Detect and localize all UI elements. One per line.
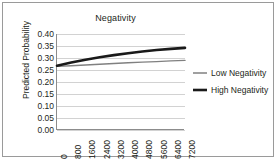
y-axis-tick-label: 0.30 [14,54,54,62]
chart-frame: Negativity Predicted Probability 0.400.3… [2,2,274,157]
chart-legend: Low Negativity High Negativity [193,64,277,98]
legend-label-low: Low Negativity [211,68,266,78]
x-axis-tick-label: 4800 [145,140,153,159]
x-axis-tick-label: 0 [60,154,68,159]
y-axis-tick-label: 0.10 [14,102,54,110]
x-axis-tick-labels: 080016002400320040004800560064007200 [56,131,186,163]
y-axis-tick-label: 0.00 [14,126,54,134]
legend-line-swatch-low [193,69,207,77]
x-axis-tick-label: 6400 [174,140,182,159]
x-axis-tick-label: 800 [74,145,82,159]
legend-line-swatch-high [193,86,207,94]
y-axis-tick-label: 0.20 [14,78,54,86]
x-axis-tick-label: 2400 [103,140,111,159]
y-axis-tick-label: 0.05 [14,114,54,122]
chart-title: Negativity [43,13,188,23]
y-axis-tick-label: 0.15 [14,90,54,98]
y-axis-tick-label: 0.25 [14,66,54,74]
y-axis-tick-label: 0.35 [14,42,54,50]
legend-label-high: High Negativity [211,85,268,95]
x-axis-tick-label: 1600 [88,140,96,159]
y-axis-tick-labels: 0.400.350.300.250.200.150.100.050.00 [12,34,54,130]
x-axis-tick-label: 4000 [131,140,139,159]
y-axis-tick-label: 0.40 [14,30,54,38]
plot-area [56,34,184,130]
x-axis-tick-label: 5600 [160,140,168,159]
series-container [57,34,185,130]
x-axis-tick-label: 7200 [188,140,196,159]
legend-item-high-negativity[interactable]: High Negativity [193,81,277,98]
legend-item-low-negativity[interactable]: Low Negativity [193,64,277,81]
x-axis-tick-label: 3200 [117,140,125,159]
